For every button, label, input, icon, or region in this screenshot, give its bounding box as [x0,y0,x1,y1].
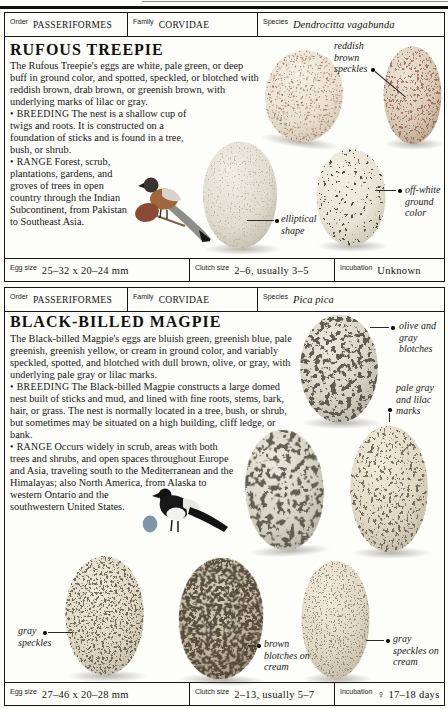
egg-size-label: Egg size [10,264,37,271]
egg-photo-treepie-2 [379,44,446,146]
clutch-size-label: Clutch size [195,264,229,271]
annotation-gray-speckles-on-cream: gray speckles on cream [393,633,445,668]
annotation-olive-gray-blotches: olive and gray blotches [399,320,445,355]
clutch-size-label: Clutch size [195,688,229,695]
clutch-size-value: 2–6, usually 3–5 [234,265,309,276]
range-keyword: RANGE [10,441,52,452]
species-value: Pica pica [293,294,334,305]
egg-photo-magpie-1 [294,312,384,425]
breeding-keyword: BREEDING [10,108,69,119]
entry-footer-bar: Egg size 25–32 x 20–24 mm Clutch size 2–… [5,258,444,281]
incubation-label: Incubation [340,264,372,271]
entry-header-bar: Order PASSERIFORMES Family CORVIDAE Spec… [5,288,444,312]
family-value: CORVIDAE [159,295,210,305]
family-label: Family [133,293,154,300]
clutch-size-value: 2–13, usually 5–7 [234,689,314,700]
order-label: Order [10,18,28,25]
leader-line [377,190,396,191]
top-rule-thick [0,6,448,9]
egg-size-value: 25–32 x 20–24 mm [42,265,129,276]
leader-line [247,220,274,221]
species-cell: Species Dendrocitta vagabunda [258,13,444,36]
intro-paragraph-magpie: The Black-billed Magpie's eggs are bluis… [10,333,304,381]
range-keyword: RANGE [10,156,52,167]
leader-line [366,640,384,641]
egg-photo-magpie-3 [344,423,434,555]
incubation-value: Unknown [377,265,421,276]
order-value: PASSERIFORMES [33,295,112,305]
text-wrap-spacer [158,489,298,545]
egg-size-dot-treepie [134,202,160,223]
egg-size-cell: Egg size 25–32 x 20–24 mm [5,259,190,281]
leader-line [370,327,389,328]
order-value: PASSERIFORMES [33,20,112,30]
text-wrap-spacer [236,441,298,489]
annotation-gray-speckles: gray speckles [18,625,64,648]
species-title-treepie: RUFOUS TREEPIE [10,41,164,59]
egg-photo-magpie-5 [170,553,272,683]
order-cell: Order PASSERIFORMES [5,13,128,36]
breeding-paragraph-magpie: BREEDINGThe Black-billed Magpie construc… [10,381,294,441]
family-label: Family [133,18,154,25]
incubation-value: ♀ 17–18 days [377,689,439,700]
species-cell: Species Pica pica [258,288,444,311]
species-title-magpie: BLACK-BILLED MAGPIE [10,313,221,331]
annotation-dot [398,189,402,193]
species-label: Species [263,293,288,300]
species-label: Species [263,18,288,25]
annotation-dot [275,219,279,223]
egg-size-cell: Egg size 27–46 x 20–28 mm [5,683,190,705]
book-page: Order PASSERIFORMES Family CORVIDAE Spec… [0,0,448,709]
annotation-dot [391,326,395,330]
intro-paragraph-treepie: The Rufous Treepie's eggs are white, pal… [10,60,262,108]
annotation-pale-gray-lilac-marks: pale gray and lilac marks [396,382,448,417]
incubation-cell: Incubation ♀ 17–18 days [335,683,444,705]
breeding-paragraph-treepie: BREEDINGThe nest is a shallow cup of twi… [10,108,202,156]
range-paragraph-treepie: RANGEForest, scrub, plantations, gardens… [10,156,130,228]
annotation-off-white-ground-color: off-white ground color [405,184,445,219]
top-rule-thin [142,1,448,2]
annotation-dot [388,408,392,412]
breeding-keyword: BREEDING [10,381,69,392]
family-value: CORVIDAE [159,20,210,30]
annotation-dot [386,639,390,643]
annotation-dot [43,631,47,635]
order-label: Order [10,293,28,300]
annotation-dot [257,644,261,648]
leader-line [248,645,255,646]
egg-size-label: Egg size [10,688,37,695]
leader-line [48,632,72,633]
egg-size-value: 27–46 x 20–28 mm [42,689,129,700]
family-cell: Family CORVIDAE [128,288,258,311]
family-cell: Family CORVIDAE [128,13,258,36]
range-paragraph-magpie: RANGEOccurs widely in scrub, areas with … [10,441,298,545]
annotation-elliptical-shape: elliptical shape [281,213,327,236]
incubation-cell: Incubation Unknown [335,259,444,281]
leader-line [389,413,390,422]
clutch-size-cell: Clutch size 2–13, usually 5–7 [190,683,335,705]
annotation-reddish-brown-speckles: reddish brown speckles [334,40,384,75]
egg-photo-magpie-4 [59,553,150,678]
clutch-size-cell: Clutch size 2–6, usually 3–5 [190,259,335,281]
incubation-label: Incubation [340,688,372,695]
entry-header-bar: Order PASSERIFORMES Family CORVIDAE Spec… [5,13,444,37]
order-cell: Order PASSERIFORMES [5,288,128,311]
annotation-brown-blotches-on-cream: brown blotches on cream [264,638,310,673]
species-value: Dendrocitta vagabunda [293,19,395,30]
